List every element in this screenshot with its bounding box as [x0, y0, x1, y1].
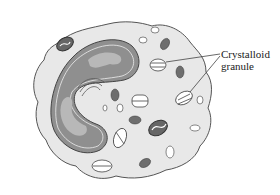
crystalloid-granule-label: Crystalloid granule — [221, 48, 270, 72]
label-line-2: granule — [221, 60, 270, 72]
cell-illustration — [0, 0, 280, 195]
label-line-1: Crystalloid — [221, 48, 270, 60]
diagram-canvas: Crystalloid granule — [0, 0, 280, 195]
